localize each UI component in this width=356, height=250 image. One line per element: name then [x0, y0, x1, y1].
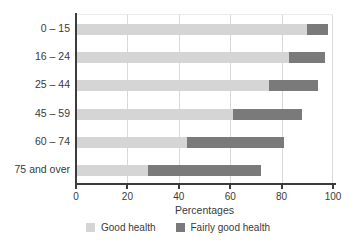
bar-segment-fairly-good-health — [307, 24, 328, 35]
bars-container — [76, 15, 333, 185]
x-tick-20 — [126, 185, 128, 189]
x-tick-label: 20 — [122, 191, 133, 202]
x-axis-title: Percentages — [76, 204, 333, 216]
x-tick-label: 60 — [225, 191, 236, 202]
bar-segment-good-health — [76, 80, 269, 91]
bar-segment-fairly-good-health — [187, 137, 285, 148]
y-axis-label: 60 – 74 — [0, 136, 70, 147]
y-axis-label: 75 and over — [0, 164, 70, 175]
bar-segment-good-health — [76, 52, 289, 63]
legend-label-good-health: Good health — [101, 222, 156, 233]
y-axis-labels: 0 – 1516 – 2425 – 4445 – 5960 – 7475 and… — [0, 14, 70, 184]
legend-item-good-health: Good health — [86, 222, 156, 233]
bar-segment-good-health — [76, 137, 187, 148]
x-tick-60 — [229, 185, 231, 189]
bar-segment-fairly-good-health — [233, 109, 302, 120]
y-axis-label: 45 – 59 — [0, 108, 70, 119]
x-tick-0 — [75, 185, 77, 189]
bar-row — [76, 137, 333, 148]
x-tick-40 — [178, 185, 180, 189]
y-axis-label: 16 – 24 — [0, 51, 70, 62]
y-axis-label: 0 – 15 — [0, 23, 70, 34]
bar-segment-fairly-good-health — [269, 80, 318, 91]
legend: Good health Fairly good health — [0, 222, 356, 233]
bar-segment-good-health — [76, 165, 148, 176]
bar-segment-fairly-good-health — [289, 52, 325, 63]
plot-area — [76, 14, 333, 185]
legend-item-fairly-good-health: Fairly good health — [176, 222, 271, 233]
x-tick-label: 80 — [276, 191, 287, 202]
x-axis-ticks — [76, 185, 333, 190]
legend-swatch-good-health — [86, 223, 95, 232]
bar-row — [76, 24, 333, 35]
y-axis-line — [75, 13, 77, 185]
x-tick-label: 0 — [73, 191, 79, 202]
bar-row — [76, 52, 333, 63]
legend-label-fairly-good-health: Fairly good health — [191, 222, 271, 233]
bar-row — [76, 109, 333, 120]
x-tick-100 — [332, 185, 334, 189]
x-tick-label: 100 — [325, 191, 342, 202]
y-axis-label: 25 – 44 — [0, 79, 70, 90]
bar-segment-good-health — [76, 24, 307, 35]
bar-segment-fairly-good-health — [148, 165, 261, 176]
x-tick-label: 40 — [173, 191, 184, 202]
bar-segment-good-health — [76, 109, 233, 120]
x-tick-80 — [281, 185, 283, 189]
x-axis-tick-labels: 020406080100 — [76, 191, 333, 203]
legend-swatch-fairly-good-health — [176, 223, 185, 232]
bar-row — [76, 165, 333, 176]
chart-figure: 0 – 1516 – 2425 – 4445 – 5960 – 7475 and… — [0, 0, 356, 250]
bar-row — [76, 80, 333, 91]
